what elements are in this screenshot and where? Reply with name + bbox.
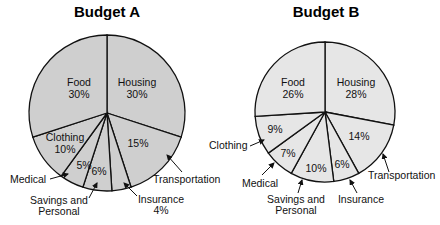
a-transportation-label: Transportation [153,173,220,185]
a-food-pct: 30% [68,88,89,100]
b-clothing-pct: 9% [267,123,282,135]
budget-a-chart: Budget A Housing 30% Food 30% 15% Clothi… [10,3,220,217]
budget-b-chart: Budget B Housing 28% Food 26% 14% 9% 7% … [209,3,435,216]
a-housing-pct: 30% [126,88,147,100]
b-insurance-pct: 6% [334,158,349,170]
a-transportation-pct: 15% [127,137,148,149]
budget-a-pie [29,35,185,191]
b-transportation-pct: 14% [348,130,369,142]
budget-b-title: Budget B [293,3,360,20]
a-clothing-label: Clothing [46,131,85,143]
a-insurance-pct: 4% [153,204,168,216]
a-housing-label: Housing [118,76,157,88]
budget-pie-charts: Budget A Housing 30% Food 30% 15% Clothi… [0,0,440,225]
b-transportation-label: Transportation [368,169,435,181]
b-clothing-label: Clothing [209,139,248,151]
a-savings-label-2: Personal [38,205,79,217]
budget-a-title: Budget A [74,3,140,20]
b-medical-pct: 7% [280,147,295,159]
a-food-label: Food [67,76,91,88]
a-clothing-pct: 10% [54,143,75,155]
b-housing-label: Housing [337,76,376,88]
b-medical-label: Medical [242,177,278,189]
b-savings-label-2: Personal [275,204,316,216]
b-insurance-label: Insurance [338,193,384,205]
b-food-pct: 26% [282,88,303,100]
a-medical-label: Medical [10,173,46,185]
a-savings-pct: 6% [91,165,106,177]
b-food-label: Food [281,76,305,88]
b-housing-pct: 28% [345,88,366,100]
a-medical-pct: 5% [76,159,91,171]
b-savings-pct: 10% [305,162,326,174]
budget-b-pie [255,42,395,182]
